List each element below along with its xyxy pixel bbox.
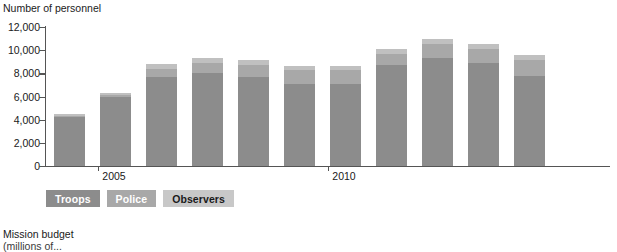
- bar-2009: [284, 66, 315, 166]
- legend-label-observers: Observers: [172, 193, 225, 205]
- bar-2004: [54, 114, 85, 166]
- bar-segment-troops: [422, 58, 453, 166]
- bar-segment-police: [514, 60, 545, 76]
- bar-segment-troops: [330, 84, 361, 166]
- bar-segment-police: [330, 70, 361, 83]
- legend-label-troops: Troops: [55, 193, 91, 205]
- bar-segment-troops: [514, 76, 545, 166]
- bar-2006: [146, 64, 177, 166]
- x-tick: [98, 166, 99, 171]
- bar-2011: [376, 49, 407, 166]
- y-tick-label: 10,000: [0, 44, 40, 56]
- y-tick: [39, 97, 46, 98]
- y-axis-labels: 02,0004,0006,0008,00010,00012,000: [0, 0, 40, 248]
- bar-2007: [192, 58, 223, 166]
- bar-2010: [330, 66, 361, 166]
- y-tick: [39, 27, 46, 28]
- footer-subtitle: (millions of...: [3, 241, 74, 252]
- y-tick-label: 6,000: [0, 91, 40, 103]
- bar-segment-police: [284, 70, 315, 83]
- bar-2014: [514, 55, 545, 166]
- y-tick: [39, 50, 46, 51]
- bar-segment-police: [468, 49, 499, 63]
- y-tick: [39, 166, 46, 167]
- y-tick-label: 4,000: [0, 114, 40, 126]
- bar-2008: [238, 60, 269, 166]
- bar-segment-troops: [192, 73, 223, 166]
- x-tick-label: 2005: [102, 170, 125, 182]
- bar-segment-troops: [284, 84, 315, 166]
- bar-segment-police: [376, 54, 407, 66]
- footer-title: Mission budget: [3, 229, 74, 241]
- y-tick: [39, 143, 46, 144]
- chart-legend: Troops Police Observers: [46, 190, 234, 207]
- y-tick-label: 8,000: [0, 67, 40, 79]
- legend-item-troops[interactable]: Troops: [46, 190, 100, 207]
- bar-segment-troops: [100, 97, 131, 166]
- footer-caption: Mission budget (millions of...: [3, 229, 74, 252]
- bar-segment-police: [238, 65, 269, 78]
- y-tick-label: 0: [0, 160, 40, 172]
- bar-segment-troops: [376, 65, 407, 166]
- bar-2005: [100, 93, 131, 166]
- y-tick-label: 12,000: [0, 21, 40, 33]
- bar-segment-troops: [54, 117, 85, 166]
- bar-segment-troops: [146, 77, 177, 166]
- bar-2013: [468, 44, 499, 166]
- bar-segment-troops: [238, 77, 269, 166]
- bar-segment-police: [422, 44, 453, 58]
- legend-item-police[interactable]: Police: [107, 190, 157, 207]
- y-tick: [39, 120, 46, 121]
- x-tick: [328, 166, 329, 171]
- bar-segment-police: [146, 69, 177, 78]
- bar-segment-police: [192, 63, 223, 73]
- bar-2012: [422, 39, 453, 166]
- legend-item-observers[interactable]: Observers: [163, 190, 234, 207]
- y-tick-label: 2,000: [0, 137, 40, 149]
- plot-area: [46, 27, 557, 166]
- y-tick: [39, 73, 46, 74]
- x-tick-label: 2010: [332, 170, 355, 182]
- legend-label-police: Police: [116, 193, 148, 205]
- bar-segment-troops: [468, 63, 499, 166]
